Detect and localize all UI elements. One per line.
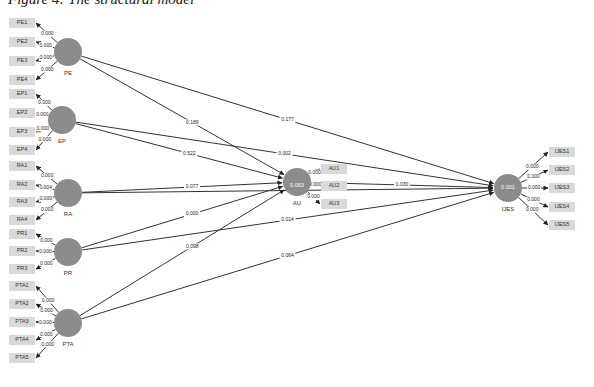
indicator-label: RA2 xyxy=(17,181,28,187)
indicator-label: PR1 xyxy=(17,230,28,236)
indicator-pe1[interactable]: PE1 xyxy=(9,18,35,28)
loading-value-ijes4: 0.000 xyxy=(527,196,540,202)
loading-value-pe4: 0.000 xyxy=(41,66,54,72)
indicator-label: PR2 xyxy=(17,247,28,253)
indicator-label: IJES2 xyxy=(555,166,570,172)
indicator-label: RA3 xyxy=(17,198,28,204)
latent-ijes[interactable]: 0.001IJES xyxy=(494,174,522,212)
latent-pe[interactable]: PE xyxy=(54,38,82,76)
loading-value-pta5: 0.000 xyxy=(42,341,55,347)
indicator-ijes4[interactable]: IJES4 xyxy=(549,202,575,212)
latent-pta[interactable]: PTA xyxy=(54,309,82,347)
indicator-pta4[interactable]: PTA4 xyxy=(9,335,35,345)
loading-value-ep4: 0.000 xyxy=(38,136,51,142)
indicator-label: AU2 xyxy=(329,182,340,188)
indicator-ra1[interactable]: RA1 xyxy=(9,161,35,171)
loading-value-pe3: 0.000 xyxy=(39,54,52,60)
path-coefficient-pta-ijes: 0.064 xyxy=(281,252,294,258)
indicator-pta3[interactable]: PTA3 xyxy=(9,317,35,327)
loading-value-au2: 0.000 xyxy=(309,181,322,187)
loading-value-ep3: 0.000 xyxy=(37,125,50,131)
loading-value-pta3: 0.000 xyxy=(39,319,52,325)
latent-label: PR xyxy=(64,270,73,276)
indicator-ra4[interactable]: RA4 xyxy=(9,215,35,225)
latent-label: PE xyxy=(64,70,72,76)
indicator-label: PTA4 xyxy=(15,336,28,342)
indicator-ep1[interactable]: EP1 xyxy=(9,89,35,99)
indicator-label: RA4 xyxy=(17,216,28,222)
indicator-ep4[interactable]: EP4 xyxy=(9,145,35,155)
loading-value-ra2: 0.004 xyxy=(39,184,52,190)
loading-value-pr2: 0.000 xyxy=(39,248,52,254)
indicator-label: PTA1 xyxy=(15,282,28,288)
indicator-label: PE1 xyxy=(17,19,27,25)
indicator-ra2[interactable]: RA2 xyxy=(9,180,35,190)
indicator-label: IJES4 xyxy=(555,203,570,209)
path-coefficient-pe-ijes: 0.177 xyxy=(281,116,294,122)
indicator-ijes2[interactable]: IJES2 xyxy=(549,165,575,175)
indicator-label: PTA5 xyxy=(15,354,28,360)
indicator-au2[interactable]: AU2 xyxy=(321,181,347,191)
indicator-au1[interactable]: AU1 xyxy=(321,164,347,174)
indicator-au3[interactable]: AU3 xyxy=(321,199,347,209)
loading-value-pe2: 0.000 xyxy=(40,42,53,48)
indicator-label: IJES1 xyxy=(555,148,570,154)
path-coefficient-pr-au: 0.000 xyxy=(186,210,199,216)
indicator-ep2[interactable]: EP2 xyxy=(9,108,35,118)
indicator-label: PE4 xyxy=(17,76,27,82)
loading-value-au1: 0.000 xyxy=(308,169,321,175)
path-coefficient-ep-au: 0.522 xyxy=(183,150,196,156)
path-coefficient-au-ijes: 0.030 xyxy=(396,181,409,187)
indicator-pe2[interactable]: PE2 xyxy=(9,37,35,47)
loading-value-au3: 0.000 xyxy=(307,193,320,199)
loading-value-pr3: 0.000 xyxy=(40,260,53,266)
loading-value-ijes3: 0.000 xyxy=(528,184,541,190)
path-pe-to-au xyxy=(80,59,284,175)
loading-value-ra4: 0.000 xyxy=(41,206,54,212)
indicator-label: EP3 xyxy=(17,128,27,134)
path-ep-to-au xyxy=(76,124,283,179)
indicator-pr1[interactable]: PR1 xyxy=(9,229,35,239)
indicator-label: EP2 xyxy=(17,109,27,115)
indicator-ep3[interactable]: EP3 xyxy=(9,127,35,137)
loading-value-ra1: 0.000 xyxy=(41,172,54,178)
latent-ep[interactable]: EP xyxy=(48,106,76,144)
indicator-pta2[interactable]: PTA2 xyxy=(9,299,35,309)
loading-value-pta2: 0.000 xyxy=(40,307,53,313)
indicator-pe3[interactable]: PE3 xyxy=(9,56,35,66)
indicator-ra3[interactable]: RA3 xyxy=(9,197,35,207)
indicator-label: AU1 xyxy=(329,165,340,171)
path-pta-to-au xyxy=(80,190,284,316)
indicator-label: PE2 xyxy=(17,38,27,44)
loading-value-pta4: 0.000 xyxy=(40,331,53,337)
loading-value-ra3: 0.000 xyxy=(39,195,52,201)
path-coefficient-ep-ijes: 0.002 xyxy=(278,150,291,156)
path-coefficient-pe-au: 0.189 xyxy=(186,119,199,125)
indicator-ijes3[interactable]: IJES3 xyxy=(549,183,575,193)
latent-label: PTA xyxy=(62,341,73,347)
indicator-label: PR3 xyxy=(17,265,28,271)
loading-value-ijes1: 0.000 xyxy=(526,163,539,169)
path-coefficient-pr-ijes: 0.014 xyxy=(281,216,294,222)
indicator-pr3[interactable]: PR3 xyxy=(9,264,35,274)
indicator-label: AU3 xyxy=(329,200,340,206)
indicator-label: PTA3 xyxy=(15,318,28,324)
indicator-pta1[interactable]: PTA1 xyxy=(9,281,35,291)
path-coefficient-pta-au: 0.098 xyxy=(186,243,199,249)
indicator-pta5[interactable]: PTA5 xyxy=(9,353,35,363)
indicator-ijes5[interactable]: IJES5 xyxy=(549,220,575,230)
loading-value-ep1: 0.000 xyxy=(38,99,51,105)
latent-r-squared: 0.063 xyxy=(290,182,304,188)
loading-value-pta1: 0.000 xyxy=(42,297,55,303)
indicator-label: IJES3 xyxy=(555,184,570,190)
latent-label: RA xyxy=(64,211,72,217)
latent-au[interactable]: 0.063AU xyxy=(283,168,311,206)
path-pr-to-au xyxy=(81,186,282,248)
indicator-pr2[interactable]: PR2 xyxy=(9,246,35,256)
loading-value-pr1: 0.000 xyxy=(40,237,53,243)
latent-ra[interactable]: RA xyxy=(54,179,82,217)
latent-pr[interactable]: PR xyxy=(54,238,82,276)
latent-label: IJES xyxy=(502,206,515,212)
indicator-ijes1[interactable]: IJES1 xyxy=(549,147,575,157)
indicator-pe4[interactable]: PE4 xyxy=(9,75,35,85)
